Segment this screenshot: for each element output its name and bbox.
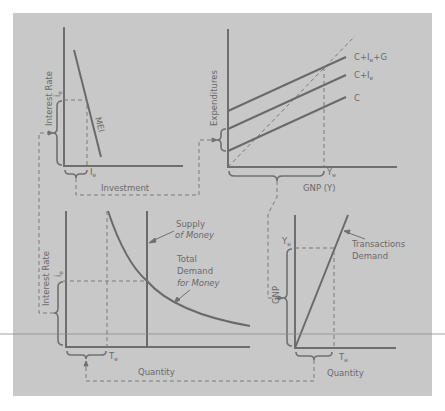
line-label-c: C bbox=[354, 93, 360, 103]
demand-label-line-3: for Money bbox=[177, 278, 221, 288]
x-axis-label: Investment bbox=[101, 183, 150, 193]
y-axis-label: Interest Rate bbox=[41, 251, 51, 306]
curve-label-line-2: Demand bbox=[352, 251, 388, 261]
curve-label-line-1: Transactions bbox=[351, 239, 406, 249]
demand-label-line-1: Total bbox=[176, 254, 197, 264]
y-axis-label: GNP bbox=[271, 286, 281, 304]
y-axis-label: Interest Rate bbox=[44, 71, 54, 126]
supply-label-line-1: Supply bbox=[176, 219, 205, 229]
x-axis-label: Quantity bbox=[138, 367, 175, 377]
demand-label-line-2: Demand bbox=[177, 266, 213, 276]
x-axis-label: GNP (Y) bbox=[303, 183, 336, 193]
supply-label-line-2: of Money bbox=[175, 230, 215, 240]
y-axis-label: Expenditures bbox=[209, 70, 219, 126]
is-lm-diagram: Interest Rate ie MEI Ie Investment Expen… bbox=[0, 0, 445, 411]
x-axis-label: Quantity bbox=[327, 368, 364, 378]
